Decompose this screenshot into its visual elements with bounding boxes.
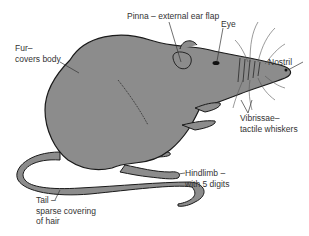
rat-nostril [285, 69, 288, 72]
label-nostril: Nostril [268, 57, 292, 68]
label-vibrissae-line2: tactile whiskers [240, 124, 298, 135]
label-fur: Fur– covers body [15, 43, 61, 64]
label-tail: Tail – sparse covering of hair [36, 195, 96, 227]
label-fur-line1: Fur– [15, 43, 61, 54]
label-vibrissae: Vibrissae– tactile whiskers [240, 113, 298, 134]
rat-hindlimb [120, 165, 180, 179]
rat-body [45, 35, 291, 169]
label-pinna-text: Pinna – external ear flap [127, 11, 219, 22]
label-nostril-text: Nostril [268, 57, 292, 68]
rat-eye [213, 61, 220, 65]
label-pinna: Pinna – external ear flap [127, 11, 219, 22]
label-eye-text: Eye [221, 19, 236, 30]
label-hindlimb-line2: with 5 digits [185, 179, 229, 190]
label-tail-line3: of hair [36, 216, 96, 227]
label-vibrissae-line1: Vibrissae– [240, 113, 298, 124]
label-tail-line1: Tail – [36, 195, 96, 206]
label-tail-line2: sparse covering [36, 206, 96, 217]
label-hindlimb-line1: Hindlimb – [185, 168, 229, 179]
label-eye: Eye [221, 19, 236, 30]
label-fur-line2: covers body [15, 54, 61, 65]
label-hindlimb: Hindlimb – with 5 digits [185, 168, 229, 189]
